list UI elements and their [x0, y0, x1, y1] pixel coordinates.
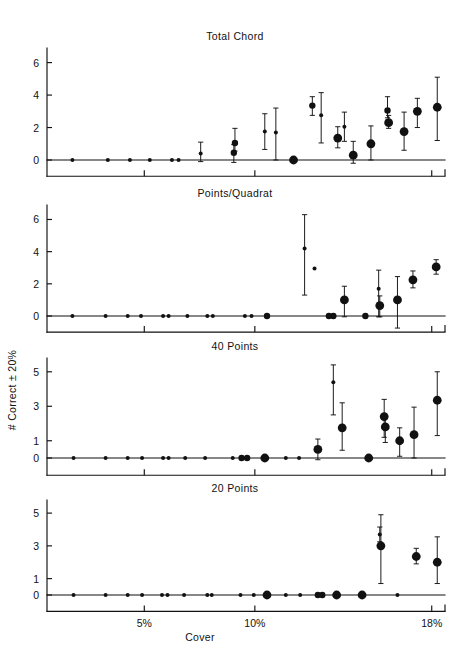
panel-title: 20 Points: [212, 482, 259, 494]
data-point: [139, 314, 143, 318]
data-point: [319, 113, 323, 117]
data-point: [289, 156, 298, 165]
data-point: [395, 436, 404, 445]
panel-title: 40 Points: [212, 340, 259, 352]
data-point: [367, 139, 376, 148]
data-point: [384, 107, 390, 113]
data-point: [128, 158, 132, 162]
data-point: [231, 149, 237, 155]
data-point: [106, 158, 110, 162]
y-tick-label: 2: [33, 122, 39, 134]
data-point: [274, 130, 278, 134]
data-point: [72, 593, 76, 597]
data-point: [331, 380, 335, 384]
y-tick-label: 1: [33, 435, 39, 447]
data-point: [313, 267, 317, 271]
y-tick-label: 4: [33, 246, 39, 258]
data-point: [205, 314, 209, 318]
data-point: [297, 456, 301, 460]
data-point: [199, 152, 203, 156]
y-tick-label: 1: [33, 573, 39, 585]
data-point: [338, 423, 347, 432]
y-tick-label: 0: [33, 589, 39, 601]
data-point: [140, 593, 144, 597]
data-point: [298, 593, 302, 597]
data-point: [395, 593, 399, 597]
y-tick-label: 0: [33, 310, 39, 322]
data-point: [231, 456, 235, 460]
data-point: [410, 430, 419, 439]
data-point: [170, 158, 174, 162]
data-point: [183, 456, 187, 460]
data-point: [393, 296, 402, 305]
data-point: [330, 313, 336, 319]
data-point: [203, 456, 207, 460]
data-point: [349, 151, 358, 160]
data-point: [182, 593, 186, 597]
data-point: [375, 301, 384, 310]
data-point: [160, 593, 164, 597]
x-tick-label: 18%: [421, 617, 442, 629]
data-point: [412, 552, 421, 561]
data-point: [232, 140, 238, 146]
data-point: [433, 103, 442, 112]
data-point: [167, 314, 171, 318]
data-point: [284, 456, 288, 460]
data-point: [376, 541, 385, 550]
y-tick-label: 5: [33, 366, 39, 378]
data-point: [70, 314, 74, 318]
data-point: [309, 102, 315, 108]
panel-4: 20 Points0135: [33, 482, 445, 611]
data-point: [140, 456, 144, 460]
y-tick-label: 6: [33, 213, 39, 225]
data-point: [244, 455, 250, 461]
data-point: [250, 314, 254, 318]
data-point: [409, 275, 418, 284]
data-point: [72, 456, 76, 460]
data-point: [126, 456, 130, 460]
data-point: [340, 296, 349, 305]
data-point: [263, 591, 272, 600]
data-point: [161, 314, 165, 318]
multi-panel-scatter-chart: Total Chord0246Points/Quadrat024640 Poin…: [0, 0, 471, 655]
y-tick-label: 5: [33, 507, 39, 519]
data-point: [126, 314, 130, 318]
data-point: [104, 456, 108, 460]
data-point: [413, 107, 422, 116]
data-point: [185, 314, 189, 318]
data-point: [238, 455, 244, 461]
data-point: [104, 314, 108, 318]
data-point: [433, 396, 442, 405]
data-point: [342, 125, 346, 129]
data-point: [252, 593, 256, 597]
data-point: [264, 313, 270, 319]
x-tick-label: 10%: [244, 617, 265, 629]
data-point: [126, 593, 130, 597]
y-tick-label: 0: [33, 154, 39, 166]
x-tick-label: 5%: [137, 617, 152, 629]
data-point: [284, 593, 288, 597]
data-point: [211, 314, 215, 318]
x-axis-title: Cover: [185, 631, 215, 643]
data-point: [260, 454, 269, 463]
data-point: [381, 423, 390, 432]
data-point: [433, 558, 442, 567]
data-point: [303, 246, 307, 250]
data-point: [362, 313, 368, 319]
data-point: [358, 591, 367, 600]
y-axis-title: # Correct ± 20%: [6, 350, 18, 430]
y-tick-label: 0: [33, 452, 39, 464]
data-point: [400, 127, 409, 136]
data-point: [166, 593, 170, 597]
data-point: [243, 314, 247, 318]
data-point: [161, 456, 165, 460]
data-point: [148, 158, 152, 162]
data-point: [70, 158, 74, 162]
figure-container: Total Chord0246Points/Quadrat024640 Poin…: [0, 0, 471, 655]
panel-title: Total Chord: [206, 30, 264, 42]
panel-2: Points/Quadrat0246: [33, 187, 445, 332]
data-point: [380, 412, 389, 421]
data-point: [205, 593, 209, 597]
data-point: [313, 445, 322, 454]
y-tick-label: 6: [33, 57, 39, 69]
